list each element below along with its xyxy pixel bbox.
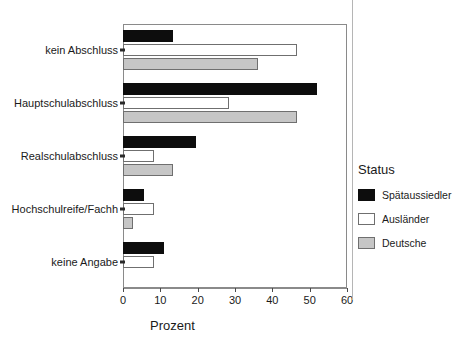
bar-0-2 (123, 136, 196, 148)
legend-label-2: Deutsche (382, 237, 426, 249)
legend-label-0: Spätaussiedler (382, 189, 451, 201)
x-tick-2 (198, 288, 199, 292)
bar-0-4 (123, 242, 164, 254)
x-tick-5 (310, 288, 311, 292)
legend-item-0: Spätaussiedler (358, 189, 468, 201)
category-axis-labels: kein AbschlussHauptschulabschlussRealsch… (0, 24, 118, 288)
bar-1-4 (123, 256, 154, 268)
bar-2-1 (123, 111, 297, 123)
y-axis-tick-0 (120, 49, 125, 52)
chart-container: kein AbschlussHauptschulabschlussRealsch… (0, 0, 468, 354)
legend: Status SpätaussiedlerAusländerDeutsche (352, 162, 468, 261)
bar-1-1 (123, 97, 229, 109)
x-tick-label-3: 30 (229, 294, 241, 306)
y-axis-tick-2 (120, 155, 125, 158)
x-axis-title: Prozent (150, 318, 195, 333)
legend-swatch-0 (358, 189, 375, 201)
category-label-0: kein Abschluss (45, 44, 118, 56)
legend-items: SpätaussiedlerAusländerDeutsche (352, 189, 468, 249)
x-tick-label-2: 20 (192, 294, 204, 306)
legend-item-2: Deutsche (358, 237, 468, 249)
bar-0-1 (123, 83, 317, 95)
bar-2-0 (123, 58, 258, 70)
y-axis-tick-4 (120, 260, 125, 263)
x-tick-label-5: 50 (304, 294, 316, 306)
bar-1-2 (123, 150, 154, 162)
bar-2-3 (123, 217, 133, 229)
x-tick-label-1: 10 (154, 294, 166, 306)
x-tick-4 (272, 288, 273, 292)
x-tick-3 (235, 288, 236, 292)
bar-1-0 (123, 44, 297, 56)
category-label-2: Realschulabschluss (21, 150, 118, 162)
y-axis-tick-1 (120, 102, 125, 105)
category-label-4: keine Angabe (51, 256, 118, 268)
bar-1-3 (123, 203, 154, 215)
y-axis-tick-3 (120, 207, 125, 210)
x-tick-label-4: 40 (266, 294, 278, 306)
category-label-1: Hauptschulabschluss (14, 97, 118, 109)
x-tick-0 (123, 288, 124, 292)
x-tick-6 (347, 288, 348, 292)
bars-layer (123, 24, 347, 288)
legend-item-1: Ausländer (358, 213, 468, 225)
x-tick-1 (160, 288, 161, 292)
legend-title: Status (358, 162, 468, 177)
bar-0-0 (123, 30, 173, 42)
x-tick-label-0: 0 (120, 294, 126, 306)
bar-2-2 (123, 164, 173, 176)
legend-swatch-1 (358, 213, 375, 225)
legend-swatch-2 (358, 237, 375, 249)
category-label-3: Hochschulreife/Fachh (12, 203, 118, 215)
bar-0-3 (123, 189, 144, 201)
legend-label-1: Ausländer (382, 213, 429, 225)
